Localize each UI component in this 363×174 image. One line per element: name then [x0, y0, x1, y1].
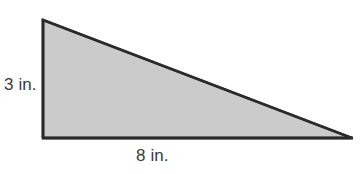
figure-canvas: 3 in. 8 in.	[0, 0, 363, 174]
base-dimension-label: 8 in.	[136, 147, 169, 164]
height-dimension-label: 3 in.	[4, 76, 37, 93]
triangle-shape	[0, 0, 363, 174]
